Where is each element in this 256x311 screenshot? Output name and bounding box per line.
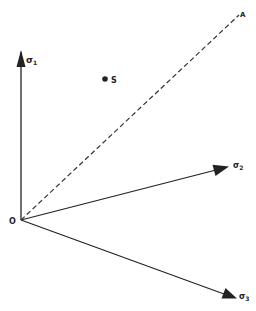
origin-label: O (9, 217, 16, 226)
point-s: S (102, 76, 117, 85)
sigma3-arrowhead-icon (222, 288, 238, 299)
sigma3-axis: σ3 (21, 220, 249, 302)
sigma2-axis-line (21, 170, 216, 220)
sigma2-arrowhead-icon (213, 165, 230, 176)
hydrostatic-line: A (21, 11, 246, 220)
sigma1-arrowhead-icon (17, 50, 26, 67)
sigma2-label: σ2 (233, 161, 243, 171)
point-s-dot-icon (102, 76, 108, 82)
sigma3-axis-line (21, 220, 224, 294)
stress-space-diagram: σ1 σ2 σ3 A S O (0, 0, 256, 311)
point-a-label: A (240, 11, 246, 19)
sigma2-axis: σ2 (21, 161, 243, 220)
point-s-label: S (111, 76, 117, 85)
sigma1-label: σ1 (26, 55, 37, 66)
sigma3-label: σ3 (239, 292, 249, 302)
sigma1-axis: σ1 (17, 50, 38, 220)
hydrostatic-dashed-line (21, 15, 239, 220)
origin: O (9, 217, 16, 226)
